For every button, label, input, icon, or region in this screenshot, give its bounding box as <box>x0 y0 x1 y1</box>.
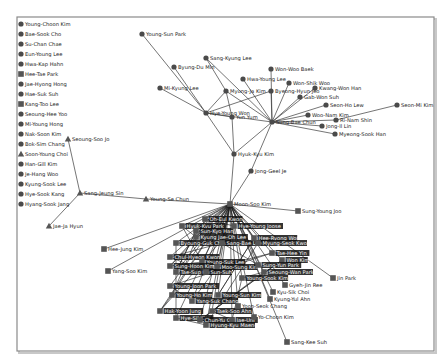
graph-node[interactable]: Seon-Ho Lew <box>323 102 364 108</box>
graph-node[interactable]: Kyung-Yul Ahn <box>267 296 310 303</box>
graph-node[interactable]: Myeong-Sook Han <box>332 131 386 138</box>
node-label: Seon-Mi Kim <box>401 102 433 108</box>
node-square-icon <box>203 322 209 328</box>
node-label: Bae-Sook Cho <box>25 31 61 37</box>
graph-node[interactable]: Yoon-Seok Chang <box>235 303 287 310</box>
graph-node[interactable]: Kyu-Sik Choi <box>270 289 309 296</box>
graph-node[interactable]: Sang-Kyung Lee <box>203 55 251 62</box>
node-square-icon <box>231 223 237 229</box>
graph-node[interactable]: Byung-Du Min <box>171 64 214 71</box>
graph-node[interactable]: Mi-Young Hong <box>18 121 63 128</box>
graph-node[interactable]: Hyung-Kyu Maeng <box>203 322 257 329</box>
graph-node[interactable]: Bae-Sook Cho <box>18 31 61 37</box>
graph-node[interactable]: Byoung-Guk Choung <box>173 240 234 247</box>
node-circle-icon <box>18 181 23 186</box>
graph-node[interactable]: Young-Joon Park <box>167 283 219 290</box>
graph-node[interactable]: Young-Sook Kim <box>239 275 288 282</box>
node-square-icon <box>18 71 24 77</box>
graph-node[interactable]: Moon-Soo Kim <box>227 201 271 207</box>
node-label: Jin Park <box>336 275 356 282</box>
graph-node[interactable]: Hee-Tae Park <box>18 71 58 77</box>
graph-node[interactable]: Seoung-Soo Jo <box>65 136 110 143</box>
node-circle-icon <box>18 61 23 66</box>
graph-node[interactable]: Hee-Jung Kim <box>101 246 143 253</box>
graph-node[interactable]: Hye-Sook Kang <box>18 191 64 198</box>
graph-node[interactable]: Sang-Kee Suh <box>284 339 327 346</box>
graph-node[interactable]: Hwa-Kap Hahn <box>18 61 63 68</box>
node-square-icon <box>197 317 203 323</box>
graph-node[interactable]: Sung-Bae Chun <box>269 119 316 126</box>
graph-node[interactable]: Gyeh-Jin Ree <box>282 282 322 289</box>
node-label: Byung-Du Min <box>178 64 215 71</box>
node-label: Gyeh-Jin Ree <box>289 282 322 289</box>
node-label: Kyung-Yul Ahn <box>274 296 310 303</box>
node-label: Young-Joon Park <box>174 283 217 290</box>
graph-node[interactable]: Young-Choon Kim <box>18 21 70 28</box>
graph-node[interactable]: Han-Gill Kim <box>18 161 57 167</box>
graph-node[interactable]: Myung-Seok Kwon <box>255 240 310 247</box>
graph-node[interactable]: Bok-Sim Chang <box>18 141 64 148</box>
node-label: Je-Hang Woo <box>24 171 58 178</box>
graph-node[interactable]: Seoung-Hee Yoo <box>18 111 67 118</box>
graph-node[interactable]: Eun-Young Lee <box>18 51 62 58</box>
node-circle-icon <box>268 66 273 71</box>
node-label: Yun Yum <box>235 114 258 120</box>
graph-node[interactable]: Sun-Suh <box>203 269 232 275</box>
node-square-icon <box>173 269 179 275</box>
graph-node[interactable]: Yo-Choon Kim <box>251 314 294 320</box>
graph-node[interactable]: Won-Woo Baek <box>268 66 313 72</box>
graph-node[interactable]: Hae-Suk Suh <box>18 91 58 97</box>
node-square-icon <box>101 246 107 252</box>
graph-node[interactable]: Sang-Jeung Sin <box>77 190 124 197</box>
node-circle-icon <box>394 102 399 107</box>
node-square-icon <box>282 282 288 288</box>
node-circle-icon <box>332 131 337 136</box>
graph-node[interactable]: Hye-Young Joose <box>231 223 283 230</box>
graph-node[interactable]: Nak-Soon Kim <box>18 131 61 137</box>
node-label: Jae-Hyong Hong <box>24 81 67 88</box>
graph-node[interactable]: Hyang-Sook Jang <box>18 201 69 208</box>
graph-node[interactable]: Su-Chan Chae <box>18 41 61 47</box>
node-label: Young-Choon Kim <box>24 21 70 28</box>
node-label: Jong-Il Lin <box>325 123 351 130</box>
graph-node[interactable]: Soon-Young Choi <box>18 151 68 158</box>
node-label: Nak-Soon Kim <box>25 131 61 137</box>
node-label: Seon-Ho Lew <box>330 102 365 108</box>
graph-node[interactable]: Jong-Geel Je <box>248 168 286 175</box>
graph-node[interactable]: Seon-Mi Kim <box>394 102 433 108</box>
node-label: Young-Sook Kim <box>246 275 289 282</box>
graph-node[interactable]: Hak-Yoon Jung <box>157 308 203 315</box>
node-square-icon <box>179 223 185 229</box>
graph-node[interactable]: Kyung-Sook Lee <box>18 181 66 188</box>
node-square-icon <box>167 263 173 269</box>
node-square-icon <box>267 296 273 302</box>
graph-node[interactable]: Yang-Soo Kim <box>105 268 147 275</box>
node-label: Moon-Soo Kim <box>234 201 271 207</box>
node-circle-icon <box>18 91 23 96</box>
graph-node[interactable]: Kwang-Won Han <box>312 85 361 92</box>
node-label: Myeong-Sook Han <box>339 131 386 138</box>
graph-node[interactable]: Jae-Hyong Hong <box>18 81 66 88</box>
graph-node[interactable]: Young-Se Chun <box>143 196 189 203</box>
graph-node[interactable]: Kang-Too Lee <box>18 101 59 108</box>
node-circle-icon <box>18 111 23 116</box>
node-circle-icon <box>18 31 23 36</box>
network-graph-canvas: Oh-Eul KwonHyuk-Kyu ParkSun-Kyo HanHye-Y… <box>0 0 447 361</box>
node-circle-icon <box>18 41 23 46</box>
graph-node[interactable]: Sung-Young Joo <box>295 208 341 215</box>
node-square-icon <box>270 289 276 295</box>
graph-node[interactable]: Myung-Ja Kim <box>223 88 265 95</box>
graph-node[interactable]: Jin Park <box>330 275 356 282</box>
node-label: Hae-Suk Suh <box>25 91 58 97</box>
node-label: Hwa-Young Lee <box>247 76 286 83</box>
graph-node[interactable]: Mi-Kyung Lee <box>157 85 198 92</box>
graph-node[interactable]: Young-Sun Park <box>139 31 186 38</box>
graph-node[interactable]: Je-Hang Woo <box>18 171 58 178</box>
graph-node[interactable]: Hyuk-Kyu Kim <box>231 151 274 158</box>
graph-node[interactable]: Hwa-Young Lee <box>240 76 286 83</box>
node-label: Kwang-Won Han <box>319 85 361 92</box>
node-circle-icon <box>319 123 324 128</box>
graph-node[interactable]: Sung-Yun Park <box>255 262 301 269</box>
graph-node[interactable]: Gab-Won Suh <box>297 94 339 100</box>
graph-node[interactable]: Yang-Suk Chang <box>189 298 238 305</box>
